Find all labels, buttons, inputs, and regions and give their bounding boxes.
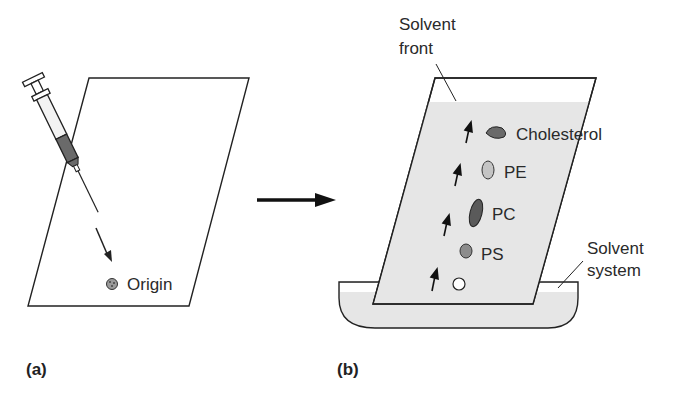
panel-b: Cholesterol PE PC PS Solvent front Solve… <box>337 15 644 379</box>
panel-a: Origin (a) <box>23 73 249 379</box>
label-pe: PE <box>504 163 527 182</box>
panel-a-label: (a) <box>26 360 47 379</box>
spot-ps <box>460 244 472 258</box>
origin-spot-developed <box>453 278 465 290</box>
label-ps: PS <box>481 245 504 264</box>
label-cholesterol: Cholesterol <box>516 125 602 144</box>
panel-b-label: (b) <box>337 360 359 379</box>
solvent-system-label-line1: Solvent <box>587 239 644 258</box>
solvent-front-label-line2: front <box>399 39 433 58</box>
spot-pe <box>482 161 494 179</box>
process-arrow-icon <box>257 193 336 207</box>
solvent-front-label-line1: Solvent <box>399 15 456 34</box>
tlc-diagram: Origin (a) Cholesterol PE PC <box>0 0 680 397</box>
origin-label: Origin <box>127 275 172 294</box>
solvent-system-label-line2: system <box>587 261 641 280</box>
origin-spot <box>107 279 118 290</box>
label-pc: PC <box>492 205 516 224</box>
tlc-plate-blank <box>28 78 249 306</box>
